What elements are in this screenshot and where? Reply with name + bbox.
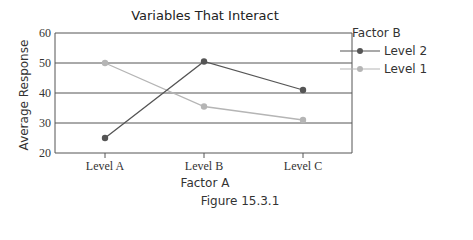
svg-text:60: 60 bbox=[39, 26, 51, 40]
legend-item: Level 2 bbox=[340, 42, 427, 60]
legend: Factor B Level 2 Level 1 bbox=[340, 26, 427, 78]
x-axis-label: Factor A bbox=[150, 176, 260, 190]
svg-text:Level A: Level A bbox=[86, 159, 125, 173]
legend-item: Level 1 bbox=[340, 60, 427, 78]
svg-text:30: 30 bbox=[39, 116, 51, 130]
legend-label: Level 1 bbox=[384, 62, 427, 76]
svg-text:Level C: Level C bbox=[284, 159, 322, 173]
svg-text:20: 20 bbox=[39, 146, 51, 160]
svg-text:50: 50 bbox=[39, 56, 51, 70]
svg-text:40: 40 bbox=[39, 86, 51, 100]
legend-label: Level 2 bbox=[384, 44, 427, 58]
legend-title: Factor B bbox=[352, 26, 427, 42]
figure-caption: Figure 15.3.1 bbox=[150, 194, 330, 208]
line-marker-icon bbox=[340, 46, 380, 56]
line-marker-icon bbox=[340, 64, 380, 74]
svg-text:Level B: Level B bbox=[185, 159, 223, 173]
